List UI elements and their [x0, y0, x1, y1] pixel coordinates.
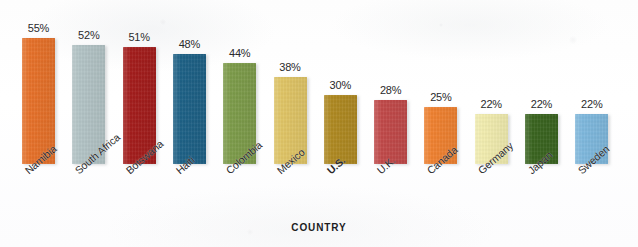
bar[interactable]: 28% — [374, 100, 407, 164]
bar-value-label: 22% — [531, 99, 552, 110]
bar[interactable]: 48% — [173, 54, 206, 164]
bar-value-label: 22% — [581, 99, 602, 110]
bar-value-label: 25% — [430, 92, 451, 103]
bar-value-label: 48% — [179, 39, 200, 50]
bar-value-label: 51% — [128, 32, 149, 43]
bar-value-label: 38% — [279, 62, 300, 73]
bar-value-label: 22% — [480, 99, 501, 110]
x-axis-title: COUNTRY — [0, 222, 638, 233]
bar-value-label: 44% — [229, 48, 250, 59]
bar-value-label: 55% — [28, 23, 49, 34]
plot-area: 55%Namibia52%South Africa51%Botswana48%H… — [0, 0, 638, 247]
bar-chart: 55%Namibia52%South Africa51%Botswana48%H… — [0, 0, 638, 247]
bar-value-label: 52% — [78, 30, 99, 41]
bar-value-label: 28% — [380, 85, 401, 96]
bar[interactable]: 30% — [324, 95, 357, 164]
bar-value-label: 30% — [330, 80, 351, 91]
